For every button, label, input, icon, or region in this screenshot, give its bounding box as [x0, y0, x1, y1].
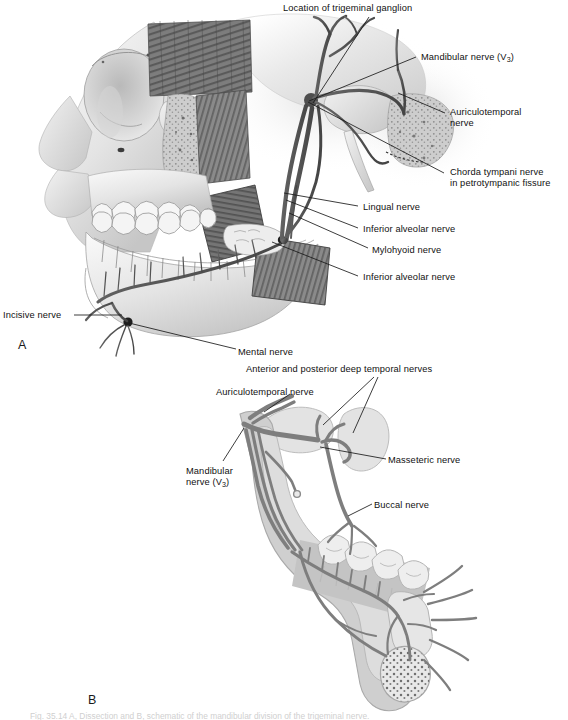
label-trigeminal-ganglion: Location of trigeminal ganglion — [283, 3, 412, 14]
label-chorda-tympani-nerve: Chorda tympani nervein petrotympanic fis… — [450, 167, 551, 190]
panel-a-letter: A — [18, 338, 26, 352]
label-auriculotemporal-nerve-b: Auriculotemporal nerve — [216, 387, 314, 398]
label-buccal-nerve: Buccal nerve — [374, 500, 429, 511]
label-mandibular-nerve-b: Mandibularnerve (V3) — [186, 466, 233, 491]
label-deep-temporal-nerves: Anterior and posterior deep temporal ner… — [246, 364, 432, 375]
label-mylohyoid-nerve: Mylohyoid nerve — [372, 245, 441, 256]
panel-b-artwork — [240, 396, 476, 711]
leader-mandibular-b — [223, 428, 244, 461]
label-inferior-alveolar-nerve-lower: Inferior alveolar nerve — [363, 272, 455, 283]
label-lingual-nerve: Lingual nerve — [363, 202, 420, 213]
label-auriculotemporal-nerve: Auriculotemporalnerve — [450, 107, 521, 130]
panel-b-letter: B — [88, 693, 96, 707]
label-incisive-nerve: Incisive nerve — [3, 310, 61, 321]
label-inferior-alveolar-nerve-upper: Inferior alveolar nerve — [363, 224, 455, 235]
anatomy-figure: Location of trigeminal ganglionMandibula… — [0, 0, 568, 720]
label-mandibular-nerve: Mandibular nerve (V3) — [421, 52, 514, 65]
label-mental-nerve: Mental nerve — [238, 347, 293, 358]
figure-caption: Fig. 35.14 A, Dissection and B, schemati… — [30, 711, 550, 720]
label-masseteric-nerve: Masseteric nerve — [388, 455, 460, 466]
leader-buccal-nerve — [348, 504, 372, 516]
